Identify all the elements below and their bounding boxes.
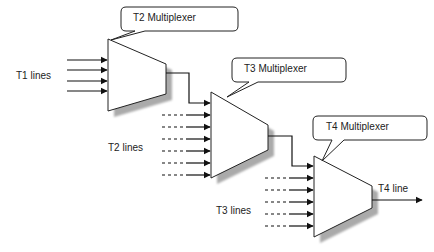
callout-t4-label: T4 Multiplexer [326, 121, 389, 132]
t4-line-label: T4 line [378, 183, 408, 194]
mux-t3-output-link [268, 136, 313, 166]
t2-lines-label: T2 lines [108, 142, 143, 153]
callout-t3-label: T3 Multiplexer [244, 63, 307, 74]
t3-lines-label: T3 lines [216, 205, 251, 216]
t3-input-arrows [265, 178, 313, 226]
mux-t4 [265, 116, 427, 243]
mux-t2-output-link [166, 73, 210, 103]
t1-lines-label: T1 lines [16, 70, 51, 81]
t1-input-arrows [67, 60, 107, 91]
t2-input-arrows [162, 115, 210, 175]
callout-t2-label: T2 Multiplexer [133, 12, 196, 23]
